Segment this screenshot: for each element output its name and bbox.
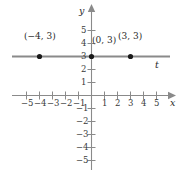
y-tick-label-minus3: −3: [76, 130, 89, 139]
y-tick-label-4: 4: [81, 39, 86, 48]
x-tick-label-4: 4: [141, 99, 146, 108]
y-tick-label-1: 1: [81, 78, 86, 87]
x-tick-label-1: 1: [102, 99, 107, 108]
y-tick-label-minus2: −2: [76, 117, 89, 126]
x-axis-label: x: [170, 98, 175, 108]
y-axis-arrowhead: [88, 4, 95, 12]
y-tick-label-minus5: −5: [76, 156, 89, 165]
annotation-point-3-3: (3, 3): [118, 32, 142, 41]
point-3-3: [128, 54, 133, 59]
point-0-3: [89, 54, 94, 59]
annotation-point-0-3: (0, 3): [92, 36, 116, 45]
point-minus4-3: [37, 54, 42, 59]
x-tick-label-2: 2: [115, 99, 120, 108]
coordinate-plane-svg: [0, 0, 182, 177]
x-tick-label-minus5: −5: [21, 99, 34, 108]
x-tick-label-minus3: −3: [47, 99, 60, 108]
y-axis-label: y: [79, 6, 84, 16]
y-tick-label-minus1: −1: [76, 104, 89, 113]
y-tick-label-3: 3: [81, 52, 86, 61]
y-tick-label-minus4: −4: [76, 143, 89, 152]
coordinate-plane-figure: −5 −4 −3 −2 −1 1 2 3 4 5 5 4 3 2 1 −1 −2…: [0, 0, 182, 177]
x-tick-label-minus2: −2: [60, 99, 73, 108]
line-label-t: t: [155, 60, 159, 70]
y-tick-label-5: 5: [81, 26, 86, 35]
x-tick-label-5: 5: [154, 99, 159, 108]
annotation-point-minus4-3: (−4, 3): [24, 32, 56, 41]
x-tick-label-3: 3: [128, 99, 133, 108]
x-tick-label-minus4: −4: [34, 99, 47, 108]
y-tick-label-2: 2: [81, 65, 86, 74]
axes-group: [12, 4, 176, 170]
